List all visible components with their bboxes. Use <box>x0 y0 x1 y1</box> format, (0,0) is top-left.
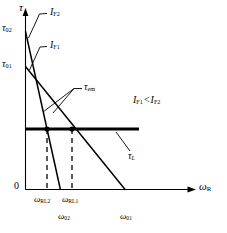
operating-point-rl1 <box>69 126 74 131</box>
inequality-right-sub: F2 <box>154 98 161 105</box>
leader-tau-load <box>116 132 130 151</box>
label-if1: IF1 <box>50 40 60 50</box>
origin-label: 0 <box>14 181 19 191</box>
torque-speed-figure: τ 0 ωR τ02 τ01 IF2 IF1 τem τL IF1<IF2 ωR… <box>0 0 227 233</box>
label-tau-em: τem <box>84 82 95 92</box>
y-axis-label: τ <box>19 2 23 13</box>
x-axis-label: ωR <box>199 181 211 193</box>
operating-point-rl2 <box>44 126 49 131</box>
tick-omega-rl2: ωRL2 <box>34 195 50 205</box>
tick-omega-rl1: ωRL1 <box>62 195 78 205</box>
tick-tau01: τ01 <box>2 59 12 69</box>
x-axis-label-sub: R <box>207 185 212 192</box>
label-tau-load: τL <box>128 151 135 161</box>
leader-tau-em-a <box>43 89 82 113</box>
tick-tau01-sub: 01 <box>6 62 12 69</box>
tick-omega-01: ω01 <box>120 212 132 222</box>
leader-tau-em-b <box>53 89 74 114</box>
tick-omega-01-sub: 01 <box>126 215 132 221</box>
label-tau-load-sub: L <box>132 154 135 161</box>
inequality-left-sub: F1 <box>136 98 143 105</box>
tick-omega-02: ω02 <box>58 212 70 222</box>
inequality-relation: < <box>144 94 150 105</box>
omega-axis <box>26 186 197 192</box>
tick-tau02-sub: 02 <box>6 26 12 33</box>
label-tau-em-sub: em <box>88 85 96 92</box>
tick-omega-02-sub: 02 <box>64 215 70 221</box>
tau-axis <box>23 8 29 190</box>
tick-omega-rl2-sub: RL2 <box>40 198 50 204</box>
x-axis-label-symbol: ω <box>199 180 207 192</box>
tick-tau02: τ02 <box>2 23 12 33</box>
leader-if2 <box>29 14 48 39</box>
label-if2: IF2 <box>50 7 60 17</box>
label-if1-sub: F1 <box>53 43 60 50</box>
annotation-inequality: IF1<IF2 <box>133 95 160 105</box>
tick-omega-rl1-sub: RL1 <box>68 198 78 204</box>
label-if2-sub: F2 <box>53 10 60 17</box>
